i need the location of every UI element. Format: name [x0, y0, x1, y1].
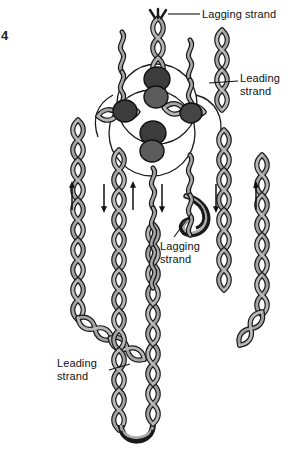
- strand-bottom-loop: [121, 424, 153, 441]
- strand-left-long-duplex: [114, 150, 125, 430]
- label-leading-strand-right: Leadingstrand: [240, 72, 280, 97]
- leader-leading-right: [209, 81, 238, 83]
- strand-inner-right-ss: [188, 155, 191, 235]
- strand-top-fray: [150, 9, 166, 18]
- label-lagging-middle-line2: strand: [160, 253, 191, 265]
- strand-far-right-duplex: [257, 155, 268, 315]
- dna-replication-figure: 4 Lagging strand Leadingstrand Laggingst…: [0, 0, 298, 453]
- figure-number: 4: [1, 28, 8, 43]
- strand-far-left-duplex: [73, 120, 84, 320]
- protein-right: [180, 103, 202, 123]
- label-lagging-middle-line1: Lagging: [160, 240, 200, 252]
- label-leading-strand-lower: Leadingstrand: [57, 357, 97, 382]
- strand-far-right-terminus: [235, 309, 266, 348]
- protein-left: [113, 100, 137, 122]
- strand-right-duplex: [219, 130, 230, 290]
- strand-center-template-ss: [151, 168, 154, 288]
- label-leading-right-line1: Leading: [240, 72, 280, 84]
- label-leading-right-line2: strand: [240, 85, 271, 97]
- protein-top-lower: [144, 86, 168, 108]
- label-lagging-strand-top: Lagging strand: [202, 8, 276, 21]
- strand-lagging-loop: [182, 196, 208, 235]
- label-leading-lower-line2: strand: [57, 370, 88, 382]
- label-lagging-strand-middle: Laggingstrand: [160, 240, 200, 265]
- label-leading-lower-line1: Leading: [57, 357, 97, 369]
- strand-arm-upper-right-duplex: [217, 30, 228, 110]
- replication-diagram-svg: [0, 0, 298, 453]
- protein-mid-lower: [140, 140, 164, 162]
